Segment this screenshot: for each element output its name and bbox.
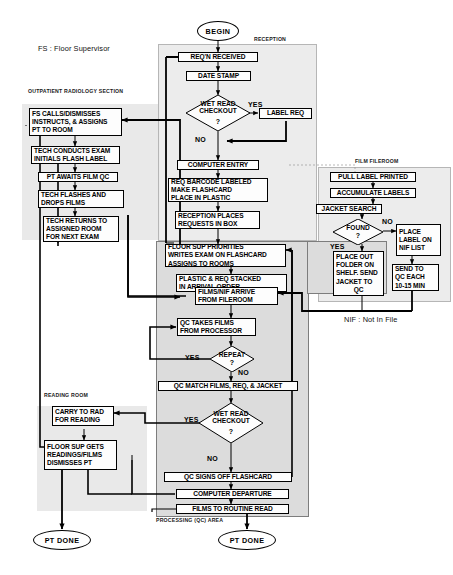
decision-line: REPEAT bbox=[219, 351, 245, 359]
node-line: TECH CONDUCTS EXAM bbox=[34, 147, 110, 155]
node-carry-to-rad: CARRY TO RAD FOR READING bbox=[52, 406, 114, 426]
branch-label-wet-read-1-yes: YES bbox=[248, 101, 263, 108]
region-label-reception: RECEPTION bbox=[254, 36, 286, 42]
node-computer-entry: COMPUTER ENTRY bbox=[177, 160, 259, 170]
node-tech-conducts: TECH CONDUCTS EXAM INITIALS FLASH LABEL bbox=[31, 146, 120, 164]
node-line: INSTRUCTS, & ASSIGNS bbox=[32, 118, 107, 126]
node-line: INITIALS FLASH LABEL bbox=[34, 155, 107, 163]
node-line: NIF LIST bbox=[399, 244, 425, 252]
node-line: RECEPTION PLACES bbox=[178, 212, 243, 220]
node-place-label-nif-list: PLACE LABEL ON NIF LIST bbox=[396, 224, 441, 256]
node-req-barcode: REQ BARCODE LABELED MAKE FLASHCARD PLACE… bbox=[168, 178, 268, 202]
node-floor-sup-prioritizes: FLOOR SUP PRIORITIES WRITES EXAM ON FLAS… bbox=[165, 244, 286, 267]
legend-nif: NIF : Not In File bbox=[344, 315, 397, 324]
node-accumulate-labels: ACCUMULATE LABELS bbox=[330, 188, 416, 198]
node-line: TECH FLASHES AND bbox=[41, 191, 106, 199]
node-line: COMPUTER DEPARTURE bbox=[193, 490, 271, 498]
node-line: REQUESTS IN BOX bbox=[178, 220, 237, 228]
node-line: FILMS TO ROUTINE READ bbox=[192, 505, 273, 513]
node-line: QC TAKES FILMS bbox=[180, 319, 234, 327]
node-line: PT TO ROOM bbox=[32, 126, 73, 134]
node-films-nif-arrive: FILMS/NIF ARRIVE FROM FILEROOM bbox=[195, 287, 278, 305]
node-line: DROPS FILMS bbox=[41, 199, 85, 207]
node-line: QC SIGNS OFF FLASHCARD bbox=[184, 473, 272, 481]
node-line: READINGS/FILMS bbox=[47, 451, 102, 459]
node-line: PLACE IN PLASTIC bbox=[171, 194, 230, 202]
decision-wet-read-checkout-1: WET READ CHECKOUT ? bbox=[186, 95, 250, 131]
node-tech-returns: TECH RETURNS TO ASSIGNED ROOM FOR NEXT E… bbox=[43, 216, 119, 242]
terminator-begin: BEGIN bbox=[197, 21, 239, 41]
node-line: FILMS/NIF ARRIVE bbox=[198, 288, 255, 296]
node-line: DISMISSES PT bbox=[47, 459, 92, 467]
node-place-out-folder: PLACE OUT FOLDER ON SHELF. SEND JACKET T… bbox=[333, 251, 384, 296]
node-line: ASSIGNED ROOM bbox=[46, 225, 101, 233]
node-qc-signs-off: QC SIGNS OFF FLASHCARD bbox=[164, 472, 292, 482]
node-line: PLASTIC & REQ STACKED bbox=[179, 275, 261, 283]
decision-question-mark: ? bbox=[229, 428, 233, 436]
region-label-fileroom: FILM FILEROOM bbox=[355, 158, 399, 164]
branch-label-found-yes: YES bbox=[330, 243, 345, 250]
node-label-req: LABEL REQ bbox=[259, 108, 312, 119]
branch-label-wet-read-2-no: NO bbox=[207, 455, 218, 462]
decision-line: WET READ bbox=[213, 410, 248, 418]
node-date-stamp: DATE STAMP bbox=[186, 71, 251, 81]
node-line: FOR NEXT EXAM bbox=[46, 233, 99, 241]
decision-line: CHECKOUT bbox=[212, 417, 249, 425]
node-line: JACKET TO bbox=[336, 278, 372, 286]
node-line: FROM PROCESSOR bbox=[180, 327, 242, 335]
node-line: QC bbox=[336, 286, 381, 294]
node-line: CARRY TO RAD bbox=[55, 408, 104, 416]
node-line: FOR READING bbox=[55, 416, 100, 424]
decision-question-mark: ? bbox=[230, 359, 234, 367]
node-line: FOLDER ON bbox=[336, 261, 374, 269]
decision-line: CHECKOUT bbox=[199, 107, 236, 115]
terminator-pt-done-left: PT DONE bbox=[33, 530, 91, 550]
node-qc-takes-films: QC TAKES FILMS FROM PROCESSOR bbox=[177, 318, 256, 336]
node-line: FROM FILEROOM bbox=[198, 296, 253, 304]
node-line: PLACE OUT bbox=[336, 253, 373, 261]
terminator-pt-done-bottom: PT DONE bbox=[218, 530, 276, 550]
node-line: FLOOR SUP GETS bbox=[47, 443, 104, 451]
node-line: FLOOR SUP PRIORITIES bbox=[168, 243, 244, 251]
node-films-to-routine-read: FILMS TO ROUTINE READ bbox=[176, 504, 289, 514]
branch-label-wet-read-2-yes: YES bbox=[184, 416, 199, 423]
node-line: LABEL REQ bbox=[267, 109, 304, 117]
node-pt-awaits: PT AWAITS FILM QC bbox=[38, 172, 118, 182]
node-line: ACCUMULATE LABELS bbox=[337, 189, 410, 197]
branch-label-repeat-no: NO bbox=[238, 369, 249, 376]
node-line: COMPUTER ENTRY bbox=[188, 161, 248, 169]
branch-label-repeat-yes: YES bbox=[185, 354, 200, 361]
node-fs-calls: FS CALLS/DISMISSES INSTRUCTS, & ASSIGNS … bbox=[29, 108, 122, 136]
node-line: REQ'N RECEIVED bbox=[191, 53, 246, 61]
node-qc-match: QC MATCH FILMS, REQ, & JACKET bbox=[158, 381, 298, 391]
decision-found: FOUND ? bbox=[333, 219, 383, 245]
decision-line: FOUND bbox=[346, 224, 369, 232]
region-label-outpatient: OUTPATIENT RADIOLOGY SECTION bbox=[28, 88, 123, 94]
flowchart-canvas: OUTPATIENT RADIOLOGY SECTION RECEPTION F… bbox=[0, 0, 453, 575]
node-reception-places: RECEPTION PLACES REQUESTS IN BOX bbox=[175, 211, 260, 229]
node-line: WRITES EXAM ON FLASHCARD bbox=[168, 251, 267, 259]
legend-fs: FS : Floor Supervisor bbox=[38, 44, 110, 53]
node-tech-flashes: TECH FLASHES AND DROPS FILMS bbox=[38, 190, 124, 208]
node-line: ASSIGNS TO ROOMS bbox=[168, 260, 234, 268]
node-req-received: REQ'N RECEIVED bbox=[178, 52, 258, 62]
node-line: PT AWAITS FILM QC bbox=[47, 173, 110, 181]
node-pull-label-printed: PULL LABEL PRINTED bbox=[330, 172, 416, 182]
node-line: SHELF. SEND bbox=[336, 269, 378, 277]
node-line: LABEL ON bbox=[399, 236, 432, 244]
decision-question-mark: ? bbox=[216, 118, 220, 126]
node-computer-departure: COMPUTER DEPARTURE bbox=[176, 489, 289, 499]
node-line: TECH RETURNS TO bbox=[46, 217, 107, 225]
node-send-to-qc: SEND TO QC EACH 10-15 MIN bbox=[392, 264, 439, 291]
node-line: FS CALLS/DISMISSES bbox=[32, 110, 100, 118]
node-line: PLACE bbox=[399, 228, 421, 236]
branch-label-found-no: NO bbox=[382, 218, 393, 225]
node-line: QC EACH bbox=[395, 273, 425, 281]
decision-wet-read-checkout-2: WET READ CHECKOUT ? bbox=[199, 403, 263, 443]
node-line: DATE STAMP bbox=[198, 72, 239, 80]
node-line: SEND TO bbox=[395, 265, 424, 273]
node-line: REQ BARCODE LABELED bbox=[171, 178, 252, 186]
decision-question-mark: ? bbox=[356, 232, 360, 240]
branch-label-wet-read-1-no: NO bbox=[195, 136, 206, 143]
region-label-qc: PROCESSING (QC) AREA bbox=[156, 517, 223, 523]
